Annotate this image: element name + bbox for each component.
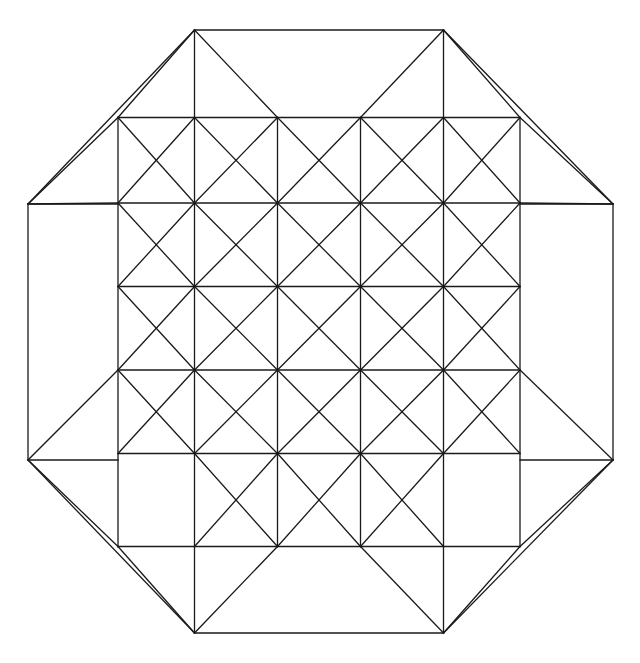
corner-strut [28,460,118,547]
cap-diagonal [195,547,278,634]
corner-strut [28,118,118,205]
cap-diagonal [28,370,118,460]
figure-canvas [0,0,640,663]
corner-strut [444,30,521,118]
cap-diagonal [195,30,278,118]
cap-diagonal [520,370,613,460]
cap-diagonal [361,547,444,634]
cap-diagonal [361,30,444,118]
geometry-line-group [28,30,613,633]
corner-strut [444,547,521,634]
corner-strut [520,118,613,205]
octagon-grid-figure [0,0,640,663]
corner-strut [520,460,613,547]
corner-strut [118,30,195,118]
corner-strut [118,547,195,634]
